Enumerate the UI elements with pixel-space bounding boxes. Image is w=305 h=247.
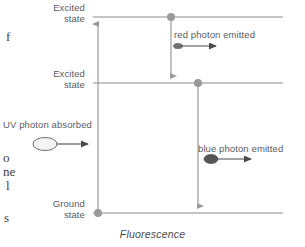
label-excited-state-mid-line1: Excited (53, 68, 85, 79)
blue-photon-icon (204, 155, 218, 164)
label-ground-state-line1: Ground (53, 198, 85, 209)
margin-text-fragment: ne (3, 165, 15, 178)
margin-text-fragment: l (6, 179, 10, 192)
label-excited-state-mid-line2: state (64, 79, 85, 90)
margin-text-fragment: f (6, 30, 10, 43)
electron-dot-ground (94, 209, 102, 217)
margin-text-fragment: o (3, 151, 10, 164)
uv-photon-icon (33, 138, 57, 151)
electron-dot-excited-mid (194, 79, 202, 87)
label-blue-photon-emitted: blue photon emitted (198, 144, 283, 155)
electron-dot-excited-top (167, 13, 175, 21)
figure-caption: Fluorescence (0, 228, 305, 240)
margin-text-fragment: s (4, 211, 9, 224)
label-ground-state-line2: state (64, 209, 85, 220)
label-uv-photon-absorbed: UV photon absorbed (3, 120, 92, 131)
label-excited-state-mid: Excitedstate (24, 69, 85, 90)
label-ground-state: Groundstate (24, 199, 85, 220)
label-excited-state-top-line1: Excited (53, 2, 85, 13)
label-excited-state-top: Excitedstate (24, 3, 85, 24)
label-red-photon-emitted: red photon emitted (174, 30, 255, 41)
label-excited-state-top-line2: state (64, 13, 85, 24)
